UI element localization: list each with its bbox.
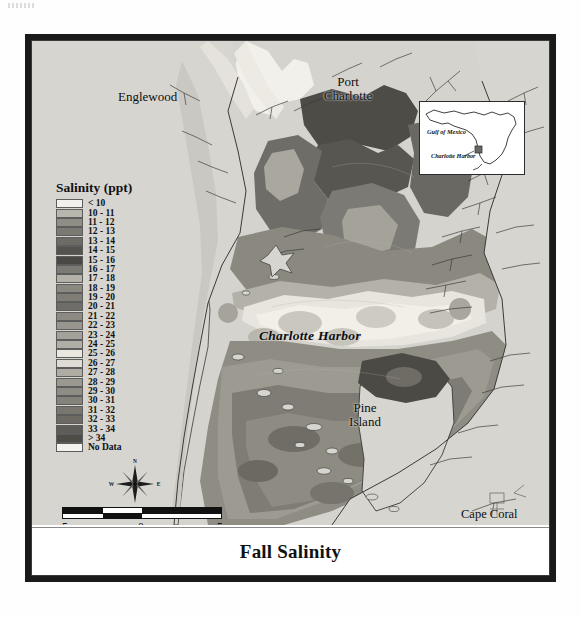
legend-swatch (56, 246, 83, 255)
legend-swatch (56, 209, 83, 218)
legend-swatch (56, 218, 83, 227)
place-label-port-charlotte: Port Charlotte (307, 75, 389, 102)
legend-rows: < 1010 - 1111 - 1212 - 1313 - 1414 - 151… (56, 199, 132, 453)
place-label-pine-island-line1: Pine (332, 401, 398, 415)
north-arrow-e: E (157, 481, 161, 487)
legend-label: < 10 (88, 199, 105, 208)
scale-bar-labels: 5 0 5 Kilometers (62, 521, 290, 525)
legend-item: < 10 (56, 199, 132, 208)
legend-swatch (56, 256, 83, 265)
scale-bar-units: Kilometers (236, 522, 288, 525)
place-label-port-charlotte-line2: Charlotte (307, 89, 389, 103)
scale-bar-row-bottom (62, 513, 222, 519)
map-title: Fall Salinity (240, 541, 341, 563)
legend-label: 14 - 15 (88, 246, 115, 255)
legend-swatch (56, 415, 83, 424)
inset-florida-outline (420, 102, 522, 172)
inset-label-charlotte-harbor: Charlotte Harbor (431, 152, 476, 159)
scale-bar-label-center: 0 (138, 521, 144, 525)
compass-rose-icon: N S E W (106, 455, 164, 513)
scan-artifact (8, 3, 36, 8)
inset-label-gulf-of-mexico: Gulf of Mexico (427, 128, 466, 135)
map-plate-inner: Englewood Port Charlotte Charlotte Harbo… (31, 40, 550, 576)
legend-swatch (56, 331, 83, 340)
place-label-charlotte-harbor: Charlotte Harbor (259, 329, 361, 343)
legend-swatch (56, 293, 83, 302)
legend-label: 12 - 13 (88, 227, 115, 236)
legend-swatch (56, 265, 83, 274)
place-label-pine-island: Pine Island (332, 401, 398, 428)
legend-swatch (56, 378, 83, 387)
scale-bar-label-left: 5 (62, 521, 68, 525)
legend-swatch (56, 368, 83, 377)
legend-swatch (56, 321, 83, 330)
legend-swatch (56, 302, 83, 311)
legend-swatch (56, 359, 83, 368)
legend-swatch (56, 340, 83, 349)
legend-swatch (56, 425, 83, 434)
legend-swatch (56, 434, 83, 443)
scale-bar-label-right: 5 (217, 521, 223, 525)
map-title-strip: Fall Salinity (32, 527, 549, 575)
legend-swatch (56, 274, 83, 283)
legend-swatch (56, 312, 83, 321)
legend-label: 32 - 33 (88, 415, 115, 424)
legend-swatch (56, 387, 83, 396)
north-arrow-w: W (109, 481, 115, 487)
legend-label: 22 - 23 (88, 321, 115, 330)
north-arrow-n: N (133, 458, 137, 464)
legend-swatch (56, 443, 83, 452)
map-canvas[interactable]: Englewood Port Charlotte Charlotte Harbo… (32, 41, 549, 525)
legend-swatch (56, 396, 83, 405)
legend: Salinity (ppt) < 1010 - 1111 - 1212 - 13… (56, 180, 132, 453)
legend-item: 14 - 15 (56, 246, 132, 255)
legend-label: 17 - 18 (88, 274, 115, 283)
legend-swatch (56, 284, 83, 293)
legend-swatch (56, 227, 83, 236)
place-label-englewood: Englewood (118, 90, 177, 104)
inset-locator-map: Gulf of Mexico Charlotte Harbor (419, 101, 525, 175)
legend-item: No Data (56, 443, 132, 452)
map-plate-frame: Englewood Port Charlotte Charlotte Harbo… (25, 34, 556, 582)
place-label-port-charlotte-line1: Port (307, 75, 389, 89)
map-page: Englewood Port Charlotte Charlotte Harbo… (0, 0, 581, 618)
scale-bar-bars (62, 507, 222, 519)
legend-item: 32 - 33 (56, 415, 132, 424)
legend-title: Salinity (ppt) (56, 180, 132, 196)
legend-label: No Data (88, 443, 122, 452)
scale-bar: 5 0 5 Kilometers (62, 507, 290, 525)
legend-label: 27 - 28 (88, 368, 115, 377)
place-label-pine-island-line2: Island (332, 415, 398, 429)
place-label-cape-coral: Cape Coral (461, 508, 518, 521)
legend-swatch (56, 349, 83, 358)
legend-swatch (56, 199, 83, 208)
legend-swatch (56, 237, 83, 246)
legend-item: 27 - 28 (56, 368, 132, 377)
scale-bar-row-top (62, 507, 222, 513)
legend-swatch (56, 406, 83, 415)
